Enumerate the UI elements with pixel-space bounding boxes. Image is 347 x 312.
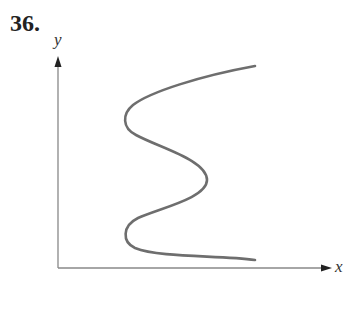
curve [125, 66, 255, 260]
graph [0, 0, 347, 312]
y-axis-arrow-icon [55, 56, 62, 67]
x-axis-arrow-icon [321, 265, 332, 272]
